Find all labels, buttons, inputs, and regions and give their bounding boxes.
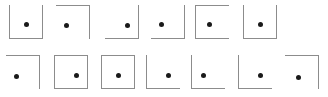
- target-dot: [296, 75, 301, 80]
- square-outline: [6, 55, 40, 89]
- stimulus-item: [9, 5, 43, 39]
- target-dot: [74, 73, 79, 78]
- target-dot: [125, 23, 130, 28]
- stimulus-item: [101, 55, 135, 89]
- stimulus-item: [195, 5, 229, 39]
- target-dot: [159, 22, 164, 27]
- target-dot: [258, 73, 263, 78]
- stimulus-item: [56, 5, 90, 39]
- stimulus-item: [151, 5, 185, 39]
- target-dot: [258, 22, 263, 27]
- square-outline: [238, 55, 272, 89]
- stimulus-item: [191, 55, 225, 89]
- stimulus-figure: [0, 0, 328, 97]
- target-dot: [201, 73, 206, 78]
- square-outline: [151, 5, 185, 39]
- target-dot: [166, 73, 171, 78]
- stimulus-item: [243, 5, 277, 39]
- target-dot: [14, 74, 19, 79]
- target-dot: [24, 22, 29, 27]
- stimulus-item: [105, 5, 139, 39]
- stimulus-row-bottom: [0, 49, 328, 97]
- square-outline: [285, 55, 319, 89]
- square-outline: [54, 55, 88, 89]
- square-outline: [146, 55, 180, 89]
- stimulus-item: [146, 55, 180, 89]
- stimulus-row-top: [0, 0, 328, 48]
- stimulus-item: [285, 55, 319, 89]
- target-dot: [207, 22, 212, 27]
- square-outline: [56, 5, 90, 39]
- stimulus-item: [238, 55, 272, 89]
- square-outline: [195, 5, 229, 39]
- target-dot: [116, 73, 121, 78]
- stimulus-item: [6, 55, 40, 89]
- square-outline: [105, 5, 139, 39]
- stimulus-item: [54, 55, 88, 89]
- target-dot: [64, 23, 69, 28]
- square-outline: [191, 55, 225, 89]
